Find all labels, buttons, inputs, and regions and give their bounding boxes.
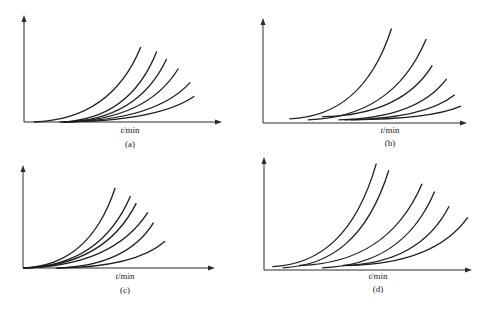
panel-d: t/min(d) [262,157,473,294]
x-axis-arrow-icon [215,120,222,125]
series-curve-6 [64,96,195,122]
panel-caption: (d) [373,284,384,294]
series-curve-6 [347,217,468,265]
y-axis-arrow-icon [261,18,266,25]
panel-caption: (a) [125,139,135,149]
panel-a: t/min(a) [22,15,223,149]
x-axis-label: t/min [368,271,388,281]
x-axis-label: t/min [380,125,400,135]
series-curve-1 [23,188,115,268]
panel-caption: (c) [120,285,130,295]
series-curve-3 [322,65,432,116]
panel-caption: (b) [385,138,396,148]
series-curve-4 [64,69,179,123]
series-curve-4 [322,192,434,268]
series-curve-3 [23,203,136,268]
series-curve-5 [343,206,449,265]
y-axis-arrow-icon [22,15,27,22]
x-axis-label-unit: /min [383,125,400,135]
x-axis-label: t/min [120,125,140,135]
y-axis-arrow-icon [21,165,26,172]
x-axis-label: t/min [115,271,135,281]
series-curve-5 [64,82,191,122]
panel-c: t/min(c) [21,165,216,295]
series-curve-2 [283,170,389,267]
x-axis-label-unit: /min [371,271,388,281]
series-curve-5 [345,95,455,120]
series-curve-1 [290,29,392,119]
x-axis-label-unit: /min [123,125,140,135]
panel-b: t/min(b) [261,18,468,148]
series-curve-1 [272,164,376,267]
x-axis-arrow-icon [465,268,472,273]
x-axis-arrow-icon [208,266,215,271]
series-curve-5 [56,223,154,268]
figure-four-panel-curves: t/min(a) t/min(b) t/min(c) t/min(d) [0,0,488,310]
series-curve-6 [58,241,166,268]
series-curve-1 [34,47,141,122]
y-axis-arrow-icon [262,157,267,164]
x-axis-arrow-icon [460,121,467,126]
x-axis-label-unit: /min [118,271,135,281]
